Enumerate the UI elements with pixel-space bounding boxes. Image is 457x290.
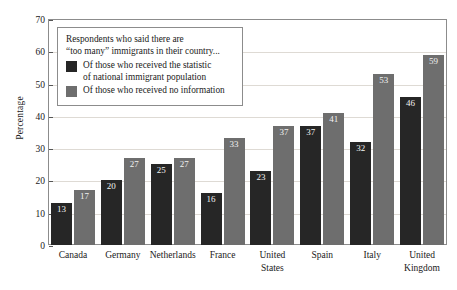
legend-entry-light: Of those who received no information [66, 85, 235, 97]
y-tick-label: 40 [36, 112, 46, 122]
legend-label-light: Of those who received no information [83, 85, 225, 97]
bar: 20 [101, 180, 122, 245]
x-axis-label: Netherlands [148, 249, 198, 262]
bar-value-label: 46 [400, 99, 421, 108]
bar: 23 [250, 171, 271, 245]
legend-swatch-light-icon [66, 86, 77, 97]
legend-header: Respondents who said there are “too many… [66, 33, 235, 57]
bar-value-label: 41 [323, 115, 344, 124]
x-axis-label: United Kingdom [397, 249, 447, 274]
x-axis-label: Spain [297, 249, 347, 262]
bar-value-label: 13 [51, 205, 72, 214]
bar-value-label: 27 [174, 160, 195, 169]
bar-group: 3253 [350, 19, 394, 245]
bar: 53 [373, 74, 394, 245]
x-axis-label: Canada [48, 249, 98, 262]
bar-value-label: 37 [300, 128, 321, 137]
bar-group: 4659 [400, 19, 444, 245]
bar-group: 3741 [300, 19, 344, 245]
x-axis-label: Germany [98, 249, 148, 262]
bar: 17 [74, 190, 95, 245]
bar: 59 [423, 55, 444, 245]
bar: 41 [323, 113, 344, 245]
bar-value-label: 37 [273, 128, 294, 137]
y-axis-title: Percentage [15, 73, 25, 163]
bar: 27 [124, 158, 145, 245]
y-tick-label: 0 [40, 241, 45, 251]
y-tick-label: 70 [36, 15, 46, 25]
y-tick-mark [49, 246, 53, 247]
bar-value-label: 17 [74, 192, 95, 201]
bar-value-label: 27 [124, 160, 145, 169]
y-tick-label: 60 [36, 47, 46, 57]
bar-value-label: 23 [250, 173, 271, 182]
x-axis-label: France [198, 249, 248, 262]
x-axis-label: United States [248, 249, 298, 274]
y-tick-label: 20 [36, 176, 46, 186]
bar: 27 [174, 158, 195, 245]
bar: 25 [151, 164, 172, 245]
bar: 16 [201, 193, 222, 245]
bar-chart: Percentage 010203040506070 1317202725271… [0, 0, 457, 290]
chart-legend: Respondents who said there are “too many… [57, 27, 243, 106]
y-tick-label: 50 [36, 80, 46, 90]
bar-value-label: 32 [350, 144, 371, 153]
bar-value-label: 53 [373, 76, 394, 85]
x-axis-label: Italy [347, 249, 397, 262]
bar: 37 [300, 126, 321, 245]
legend-swatch-dark-icon [66, 61, 77, 72]
bar: 46 [400, 97, 421, 246]
bar: 33 [224, 138, 245, 245]
legend-label-dark: Of those who received the statistic of n… [83, 60, 211, 83]
bar-value-label: 59 [423, 57, 444, 66]
y-tick-label: 30 [36, 144, 46, 154]
x-axis-labels: CanadaGermanyNetherlandsFranceUnited Sta… [48, 249, 447, 287]
bar: 13 [51, 203, 72, 245]
bar-value-label: 33 [224, 140, 245, 149]
bar: 37 [273, 126, 294, 245]
bar-value-label: 20 [101, 182, 122, 191]
legend-entry-dark: Of those who received the statistic of n… [66, 60, 235, 83]
bar-value-label: 25 [151, 166, 172, 175]
bar: 32 [350, 142, 371, 245]
y-tick-label: 10 [36, 209, 46, 219]
bar-value-label: 16 [201, 195, 222, 204]
bar-group: 2337 [250, 19, 294, 245]
